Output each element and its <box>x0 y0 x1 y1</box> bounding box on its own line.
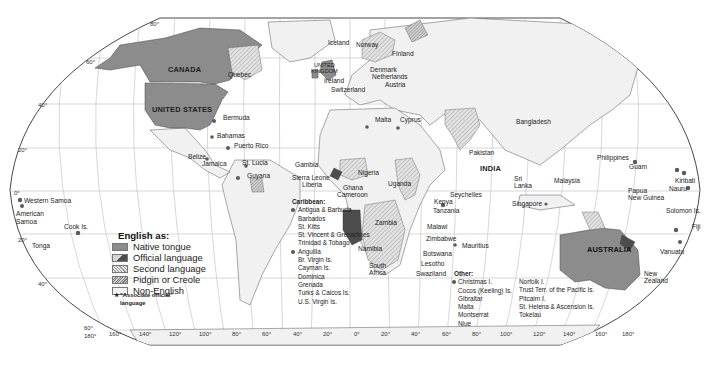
label-seychelles: Seychelles <box>450 192 482 199</box>
uk-line2: KINGDOM <box>311 68 338 74</box>
latitude-label-60s: 60° <box>84 325 93 331</box>
longitude-label: 160° <box>109 331 121 337</box>
label-singapore: Singapore <box>512 201 542 208</box>
latitude-label-40: 40° <box>38 102 47 108</box>
label-mauritius: Mauritius <box>462 243 489 250</box>
longitude-label: 140° <box>139 331 151 337</box>
latitude-label-20n: 20° <box>18 147 27 153</box>
bullet-icon <box>452 280 456 284</box>
caribbean-item: Br. Virgin Is. <box>298 256 370 264</box>
longitude-label: 120° <box>169 331 181 337</box>
other-item: Malta <box>458 303 512 311</box>
other-item: Gibraltar <box>458 295 512 303</box>
label-nauru: Nauru <box>669 186 687 193</box>
label-st-lucia: St. Lucia <box>242 160 268 167</box>
american-samoa-line1: American <box>16 210 44 217</box>
south-africa-line2: Africa <box>369 269 386 276</box>
longitude-label: 40° <box>411 331 420 337</box>
label-malaysia: Malaysia <box>554 178 580 185</box>
caribbean-item: U.S. Virgin Is. <box>298 298 370 306</box>
other-list-col-2: Norfolk I. Trust Terr. of the Pacific Is… <box>519 278 594 319</box>
label-south-africa: SouthAfrica <box>369 263 386 276</box>
label-tonga: Tonga <box>32 243 50 250</box>
legend: English as: Native tongue Official langu… <box>112 230 232 296</box>
label-american-samoa: AmericanSamoa <box>16 210 44 226</box>
label-nigeria: Nigeria <box>358 170 379 177</box>
label-jamaica: Jamaica <box>202 161 227 168</box>
longitude-label: 100° <box>199 331 211 337</box>
label-new-zealand: NewZealand <box>644 271 668 284</box>
caribbean-item: Turks & Caicos Is. <box>298 289 370 297</box>
label-solomon-islands: Solomon Is. <box>666 208 701 215</box>
other-list: Other: Christmas I. Cocos (Keeling) Is. … <box>452 270 512 328</box>
new-zealand-line2: Zealand <box>644 277 668 284</box>
legend-label: Official language <box>133 252 203 263</box>
longitude-label: 100° <box>500 331 512 337</box>
bullet-icon <box>291 250 295 254</box>
latitude-label-80: 80° <box>150 21 159 27</box>
latitude-label-40s: 40° <box>38 281 47 287</box>
longitude-label: 40° <box>293 331 302 337</box>
legend-label: Second language <box>133 263 206 274</box>
longitude-label: 20° <box>323 331 332 337</box>
label-iceland: Iceland <box>328 40 349 47</box>
latitude-label-20s: 20° <box>18 237 27 243</box>
other-item: Montserrat <box>458 311 512 319</box>
label-united-kingdom: UNITEDKINGDOM <box>311 63 338 75</box>
caribbean-item: St. Kitts <box>298 223 370 231</box>
star-icon: ★ <box>114 292 119 300</box>
label-puerto-rico: Puerto Rico <box>234 143 268 150</box>
longitude-label: 60° <box>442 331 451 337</box>
caribbean-group-1: Antigua & Barbuda Barbados St. Kitts St.… <box>292 206 370 247</box>
label-papua-new-guinea: PapuaNew Guinea <box>628 188 664 201</box>
longitude-label: 160° <box>595 331 607 337</box>
label-sri-lanka: SriLanka <box>514 176 532 189</box>
caribbean-heading: Caribbean: <box>292 198 370 206</box>
caribbean-list: Caribbean: Antigua & Barbuda Barbados St… <box>292 198 370 306</box>
swatch-pidgin <box>112 276 128 284</box>
associate-official-note: ★ "Associate official" language <box>120 292 173 307</box>
caribbean-item: Anguilla <box>298 248 370 256</box>
other-item: St. Helena & Ascension Is. <box>519 303 594 311</box>
caribbean-item: Antigua & Barbuda <box>298 206 370 214</box>
swatch-second <box>112 265 128 273</box>
label-austria: Austria <box>385 82 406 89</box>
label-ireland: Ireland <box>324 78 344 85</box>
label-bangladesh: Bangladesh <box>516 119 551 126</box>
label-australia: AUSTRALIA <box>587 246 632 253</box>
longitude-label: 140° <box>563 331 575 337</box>
longitude-label: 180° <box>84 333 96 339</box>
label-malawi: Malawi <box>427 224 448 231</box>
label-bahamas: Bahamas <box>217 133 245 140</box>
label-bermuda: Bermuda <box>223 115 250 122</box>
legend-label: Native tongue <box>133 241 191 252</box>
other-item: Niue <box>458 320 512 328</box>
label-liberia: Liberia <box>302 182 322 189</box>
label-vanuatu: Vanuatu <box>660 249 684 256</box>
bullet-icon <box>291 208 295 212</box>
label-lesotho: Lesotho <box>421 261 444 268</box>
label-pakistan: Pakistan <box>469 150 494 157</box>
label-netherlands: Netherlands <box>372 74 408 81</box>
sri-lanka-line2: Lanka <box>514 182 532 189</box>
american-samoa-line2: Samoa <box>16 218 37 225</box>
longitude-label: 80° <box>472 331 481 337</box>
caribbean-item: Trinidad & Tobago <box>298 239 370 247</box>
longitude-label: 60° <box>262 331 271 337</box>
label-zambia: Zambia <box>375 220 397 227</box>
label-malta: Malta <box>375 117 391 124</box>
caribbean-item: Dominica <box>298 273 370 281</box>
label-kiribati: Kiribati <box>675 178 695 185</box>
label-guyana: Guyana <box>247 173 270 180</box>
latitude-label-60: 60° <box>86 59 95 65</box>
other-item: Cocos (Keeling) Is. <box>458 287 512 295</box>
longitude-label: 120° <box>533 331 545 337</box>
label-norway: Norway <box>356 42 378 49</box>
other-item: Norfolk I. <box>519 278 594 286</box>
longitude-label: 20° <box>381 331 390 337</box>
label-cyprus: Cyprus <box>400 117 421 124</box>
other-heading: Other: <box>454 270 512 278</box>
longitude-label: 0° <box>354 331 360 337</box>
label-finland: Finland <box>392 51 414 58</box>
label-switzerland: Switzerland <box>331 87 365 94</box>
